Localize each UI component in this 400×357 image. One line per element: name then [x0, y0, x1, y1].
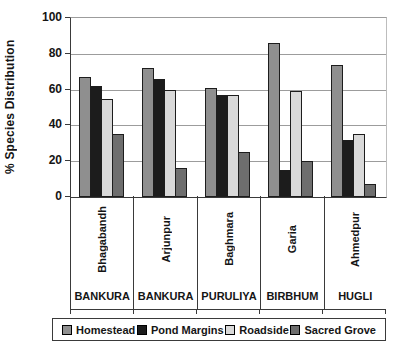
district-label: HUGLI	[325, 282, 386, 309]
gridline	[71, 54, 386, 55]
village-label-wrap: Arjunpur	[134, 196, 196, 282]
village-label: Bhagabandh	[96, 206, 108, 273]
legend-item: Sacred Grove	[290, 324, 376, 336]
legend-item: Roadside	[225, 324, 289, 336]
y-axis-title: % Species Distribution	[3, 17, 17, 196]
category-tick-mark	[196, 310, 197, 314]
legend-swatch-pond-margins	[137, 325, 147, 335]
legend-swatch-roadside	[225, 325, 235, 335]
legend-item: Pond Margins	[137, 324, 224, 336]
category-tick-mark	[70, 310, 71, 314]
district-label: BIRBHUM	[261, 282, 323, 309]
y-tick-label: 40	[26, 117, 62, 131]
category-tick-mark	[322, 310, 323, 314]
legend-swatch-sacred-grove	[290, 325, 300, 335]
legend-item: Homestead	[62, 324, 135, 336]
legend-label: Roadside	[239, 324, 289, 336]
category-tick-mark	[259, 310, 260, 314]
district-label: BANKURA	[134, 282, 196, 309]
village-label-wrap: Garia	[261, 196, 323, 282]
bar-sacred-grove	[364, 184, 376, 197]
bar-sacred-grove	[112, 134, 124, 197]
legend-label: Sacred Grove	[304, 324, 376, 336]
category-cell: BhagabandhBANKURA	[71, 196, 134, 309]
village-label-wrap: Ahmedpur	[325, 196, 386, 282]
y-tick-label: 60	[26, 82, 62, 96]
category-cell: ArjunpurBANKURA	[134, 196, 197, 309]
village-label-wrap: Bhagabandh	[71, 196, 133, 282]
legend: HomesteadPond MarginsRoadsideSacred Grov…	[52, 318, 386, 341]
village-label: Ahmedpur	[349, 212, 361, 267]
category-axis: BhagabandhBANKURAArjunpurBANKURABaghmara…	[70, 196, 386, 310]
legend-label: Homestead	[76, 324, 135, 336]
species-distribution-chart: % Species Distribution 020406080100 Bhag…	[0, 0, 400, 357]
bar-sacred-grove	[238, 152, 250, 197]
village-label: Arjunpur	[160, 216, 172, 262]
village-label: Baghmara	[223, 212, 235, 266]
legend-label: Pond Margins	[151, 324, 224, 336]
category-cell: BaghmaraPURULIYA	[198, 196, 261, 309]
y-tick-label: 80	[26, 46, 62, 60]
plot-area	[70, 17, 387, 198]
legend-swatch-homestead	[62, 325, 72, 335]
village-label: Garia	[286, 225, 298, 253]
category-cell: GariaBIRBHUM	[261, 196, 324, 309]
category-cell: AhmedpurHUGLI	[325, 196, 386, 309]
category-tick-mark	[133, 310, 134, 314]
bar-sacred-grove	[301, 161, 313, 197]
category-tick-mark	[385, 310, 386, 314]
district-label: BANKURA	[71, 282, 133, 309]
bar-sacred-grove	[175, 168, 187, 197]
y-tick-label: 20	[26, 153, 62, 167]
y-tick-label: 100	[26, 10, 62, 24]
village-label-wrap: Baghmara	[198, 196, 260, 282]
y-tick-label: 0	[26, 189, 62, 203]
district-label: PURULIYA	[198, 282, 260, 309]
